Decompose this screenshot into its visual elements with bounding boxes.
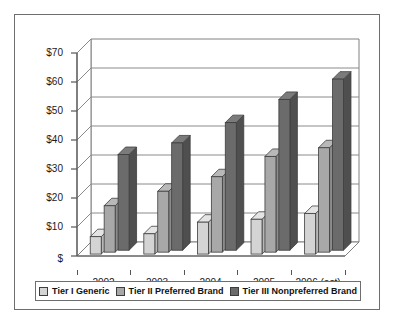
- bar-tier-iii-nonpreferred-brand-2005: [279, 92, 298, 250]
- legend-swatch-tier-i: [39, 287, 48, 296]
- legend-swatch-tier-ii: [116, 287, 125, 296]
- x-tick-mark: [237, 270, 238, 275]
- x-tick-mark: [184, 270, 185, 275]
- bar-tier-iii-nonpreferred-brand-2002: [118, 147, 137, 250]
- bar-tier-iii-nonpreferred-brand-2003: [172, 135, 191, 250]
- legend-label: Tier II Preferred Brand: [129, 286, 224, 296]
- bar-tier-iii-nonpreferred-brand-2006-est-: [332, 72, 351, 251]
- legend-item[interactable]: Tier II Preferred Brand: [116, 286, 224, 296]
- legend-swatch-tier-iii: [230, 287, 239, 296]
- x-tick-mark: [77, 270, 78, 275]
- x-tick-mark: [345, 270, 346, 275]
- chart-frame: $70 $60 $50 $40 $30 $20 $10 $ 2002 2003 …: [14, 14, 380, 310]
- x-tick-mark: [130, 270, 131, 275]
- legend-item[interactable]: Tier I Generic: [39, 286, 109, 296]
- bar-tier-iii-nonpreferred-brand-2004: [225, 115, 244, 250]
- x-tick-mark: [291, 270, 292, 275]
- bar-chart: $70 $60 $50 $40 $30 $20 $10 $ 2002 2003 …: [15, 15, 381, 311]
- bar-series-layer: [15, 15, 381, 311]
- legend-label: Tier I Generic: [52, 286, 109, 296]
- chart-screenshot: $70 $60 $50 $40 $30 $20 $10 $ 2002 2003 …: [0, 0, 404, 326]
- legend-item[interactable]: Tier III Nonpreferred Brand: [230, 286, 357, 296]
- chart-legend: Tier I Generic Tier II Preferred Brand T…: [35, 281, 361, 301]
- legend-label: Tier III Nonpreferred Brand: [243, 286, 357, 296]
